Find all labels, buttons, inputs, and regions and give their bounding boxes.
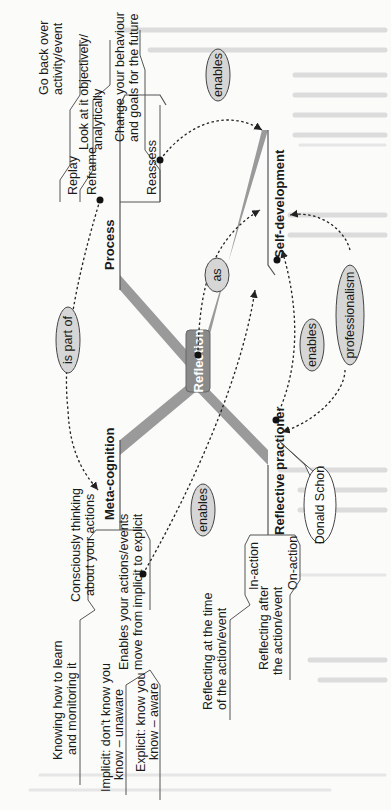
in-action-desc-1: Reflecting at the time xyxy=(201,593,215,710)
link-oval-enables-practitioner[interactable]: enables xyxy=(300,319,324,371)
on-action-desc-2: the action/event xyxy=(271,586,285,675)
metacog-desc-1a: Consciously thinking xyxy=(69,488,83,602)
link-oval-enables-process[interactable]: enables xyxy=(206,49,230,101)
root-spokes xyxy=(120,130,268,465)
branch-reflective-practitioner[interactable]: Reflective practioner In-action On-actio… xyxy=(201,406,336,720)
svg-text:as: as xyxy=(210,268,224,281)
reframe-label: Reframe xyxy=(85,147,99,195)
self-development-label: Self-development xyxy=(272,149,287,258)
reassess-desc-2: and goals for the future xyxy=(127,13,141,142)
metacog-desc-2b: move from implicit to explicit xyxy=(131,513,145,670)
reassess-desc-1: Change your behaviour xyxy=(113,12,127,142)
link-oval-enables-metacognition[interactable]: enables xyxy=(191,484,215,536)
metacog-desc-2a: Enables your actions/events xyxy=(117,514,131,670)
link-oval-as[interactable]: as xyxy=(205,258,229,292)
branch-self-development[interactable]: Self-development xyxy=(268,130,287,275)
metacog-sub-3a: Explicit: know you xyxy=(134,673,148,772)
on-action-desc-1: Reflecting after xyxy=(257,586,271,670)
in-action-label: In-action xyxy=(247,542,261,590)
reassess-label: Reassess xyxy=(145,140,159,195)
branch-meta-cognition[interactable]: Meta-cognition Consciously thinking abou… xyxy=(51,428,161,800)
reframe-desc-1: Look at it objectively/ xyxy=(77,33,91,150)
svg-text:is part of: is part of xyxy=(61,316,75,364)
metacog-sub-3b: know – aware xyxy=(147,683,161,760)
link-oval-is-part-of[interactable]: is part of xyxy=(56,307,80,373)
diagram-page: Reflection Process Replay Go back over a… xyxy=(0,0,391,810)
svg-text:enables: enables xyxy=(196,488,210,532)
replay-label: Replay xyxy=(66,155,80,195)
meta-cognition-label: Meta-cognition xyxy=(102,428,117,520)
replay-desc-1: Go back over xyxy=(37,21,51,95)
on-action-label: On-action xyxy=(286,536,300,590)
svg-text:enables: enables xyxy=(211,53,225,97)
link-oval-professionalism[interactable]: professionalism xyxy=(336,265,364,365)
metacog-sub-2a: Implicit: don't know you xyxy=(99,663,113,792)
mind-map: Reflection Process Replay Go back over a… xyxy=(0,0,391,810)
svg-text:enables: enables xyxy=(305,323,319,367)
branch-process[interactable]: Process Replay Go back over activity/eve… xyxy=(37,12,166,290)
reframe-desc-2: analytically xyxy=(91,88,105,150)
process-label: Process xyxy=(102,219,117,270)
metacog-sub-1a: Knowing how to learn xyxy=(51,640,65,760)
donald-schon-callout: Donald Schon xyxy=(313,466,327,545)
metacog-desc-1b: about your actions xyxy=(83,494,97,596)
reflective-practitioner-label: Reflective practioner xyxy=(272,406,287,535)
metacog-sub-1b: and monitoring it xyxy=(65,662,79,755)
replay-desc-2: activity/event xyxy=(51,22,65,95)
svg-text:professionalism: professionalism xyxy=(343,272,357,359)
metacog-sub-2b: know – unaware xyxy=(112,689,126,780)
in-action-desc-2: of the action/event xyxy=(215,607,229,710)
